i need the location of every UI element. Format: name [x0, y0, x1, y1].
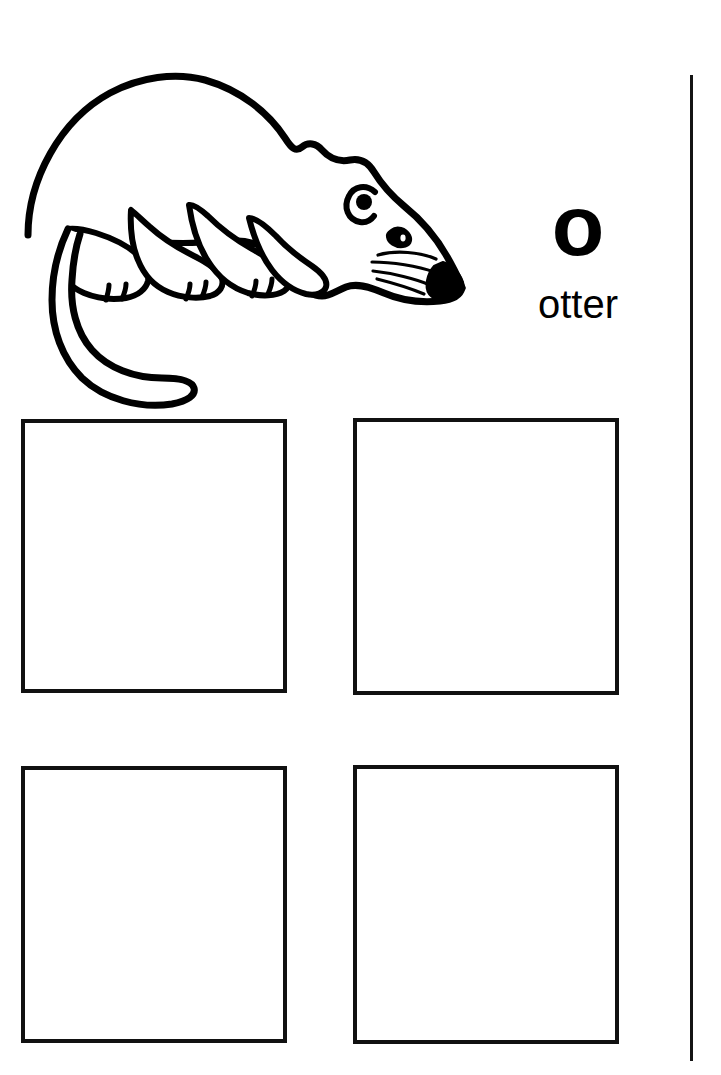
answer-box-top-left[interactable]	[21, 419, 287, 693]
letter-word-otter: otter	[488, 282, 668, 326]
right-margin-divider	[690, 75, 693, 1061]
worksheet-page: o otter	[0, 0, 721, 1075]
otter-illustration	[0, 0, 500, 415]
otter-line-drawing-svg	[0, 0, 500, 415]
otter-eye	[387, 228, 411, 248]
answer-box-bottom-right[interactable]	[353, 765, 619, 1044]
letter-glyph-o: o	[488, 185, 668, 265]
otter-eye-highlight	[400, 235, 405, 242]
answer-box-bottom-left[interactable]	[21, 766, 287, 1043]
answer-box-top-right[interactable]	[353, 418, 619, 695]
letter-label-block: o otter	[488, 185, 668, 326]
otter-ear-dot	[356, 194, 372, 210]
otter-nose	[427, 262, 464, 301]
